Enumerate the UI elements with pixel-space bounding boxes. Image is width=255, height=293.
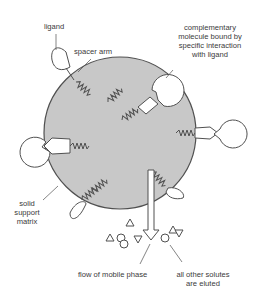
solutes-group [106, 219, 183, 248]
solid-support-label: solid support matrix [12, 199, 42, 226]
triangle-icon [126, 219, 134, 226]
eluted-label: all other solutes are eluted [168, 270, 238, 288]
circle-icon [161, 234, 169, 242]
circle-icon [120, 240, 128, 248]
complementary-label: complementary molecule bound by specific… [170, 23, 250, 59]
flow-label: flow of mobile phase [78, 270, 147, 279]
ligand-label: ligand [44, 22, 64, 31]
spacer-arm-label: spacer arm [74, 47, 112, 56]
triangle-down-icon [134, 236, 142, 243]
triangle-icon [106, 234, 114, 241]
